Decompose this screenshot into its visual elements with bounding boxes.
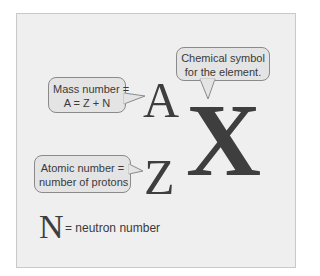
element-symbol: X [186, 88, 261, 192]
callout-atomic-number-tail-icon [129, 163, 147, 177]
neutron-symbol: N [39, 210, 64, 244]
mass-number-symbol: A [143, 75, 179, 125]
neutron-number-label: = neutron number [65, 221, 160, 235]
callout-mass-number-line1: Mass number = [53, 82, 121, 96]
callout-chemical-symbol-tail-icon [198, 79, 222, 101]
callout-atomic-number-line2: number of protons [39, 175, 126, 189]
callout-atomic-number: Atomic number = number of protons [34, 155, 131, 193]
callout-chemical-symbol-line1: Chemical symbol [181, 51, 265, 65]
atomic-number-symbol: Z [144, 152, 175, 202]
callout-chemical-symbol: Chemical symbol for the element. [176, 47, 270, 81]
callout-atomic-number-line1: Atomic number = [39, 161, 126, 175]
callout-mass-number-tail-icon [124, 89, 148, 107]
callout-mass-number-line2: A = Z + N [53, 96, 121, 110]
callout-mass-number: Mass number = A = Z + N [48, 77, 126, 113]
callout-chemical-symbol-line2: for the element. [181, 65, 265, 79]
